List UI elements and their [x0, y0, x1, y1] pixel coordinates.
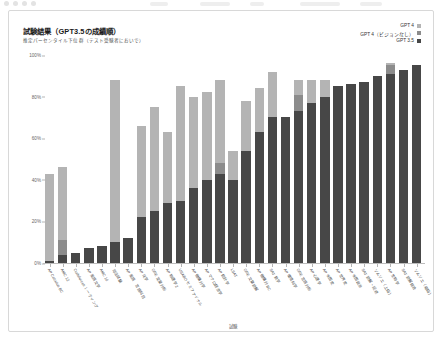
bar-segment-gpt35 [189, 188, 198, 263]
bar-slot[interactable] [161, 55, 174, 263]
bar-segment-gpt35 [373, 76, 382, 263]
bar-stack[interactable] [84, 248, 93, 263]
bar-stack[interactable] [176, 86, 185, 263]
bar-stack[interactable] [189, 97, 198, 263]
y-axis-tick-0: 0% [9, 261, 41, 266]
bar-slot[interactable] [292, 55, 305, 263]
bar-slot[interactable] [187, 55, 200, 263]
bar-stack[interactable] [71, 253, 80, 263]
bar-stack[interactable] [255, 88, 264, 263]
bar-stack[interactable] [97, 246, 106, 263]
bar-stack[interactable] [215, 80, 224, 263]
bar-slot[interactable] [279, 55, 292, 263]
bar-stack[interactable] [163, 132, 172, 263]
x-axis-label-slot: Codeforces レーティング [69, 268, 82, 330]
bar-slot[interactable] [358, 55, 371, 263]
bar-slot[interactable] [318, 55, 331, 263]
bar-slot[interactable] [95, 55, 108, 263]
bar-segment-gpt4 [307, 80, 316, 103]
legend-swatch-icon [417, 24, 421, 28]
bar-stack[interactable] [123, 238, 132, 263]
bar-stack[interactable] [45, 174, 54, 263]
x-axis-label-slot: AP 米国史 [318, 268, 331, 330]
bar-slot[interactable] [69, 55, 82, 263]
bar-segment-gpt35 [84, 248, 93, 263]
bar-stack[interactable] [373, 76, 382, 263]
bar-slot[interactable] [305, 55, 318, 263]
bar-stack[interactable] [333, 86, 342, 263]
legend-label: GPT 4（ビジョンなし） [360, 30, 414, 37]
x-axis-label-slot: AP 英語 言語科目 [122, 268, 135, 330]
bar-slot[interactable] [397, 55, 410, 263]
bar-stack[interactable] [202, 92, 211, 263]
x-axis-tick [410, 264, 423, 267]
bar-stack[interactable] [294, 80, 303, 263]
bar-segment-gpt35 [150, 211, 159, 263]
bar-segment-gpt35 [333, 86, 342, 263]
bar-slot[interactable] [227, 55, 240, 263]
bar-stack[interactable] [412, 65, 421, 263]
bar-slot[interactable] [174, 55, 187, 263]
bar-segment-gpt4 [294, 80, 303, 95]
bar-stack[interactable] [281, 117, 290, 263]
bar-slot[interactable] [148, 55, 161, 263]
bar-slot[interactable] [331, 55, 344, 263]
bar-segment-gpt35 [215, 174, 224, 263]
bar-slot[interactable] [213, 55, 226, 263]
browser-chrome-strip [0, 0, 442, 9]
bar-segment-gpt35 [110, 242, 119, 263]
bar-slot[interactable] [122, 55, 135, 263]
bar-slot[interactable] [240, 55, 253, 263]
window-dot-close-icon [4, 1, 9, 6]
x-axis-label-slot: GRE 定量分析 [148, 268, 161, 330]
bar-stack[interactable] [137, 126, 146, 263]
chrome-placeholder-d [300, 2, 340, 6]
bar-stack[interactable] [386, 63, 395, 263]
bar-slot[interactable] [384, 55, 397, 263]
bar-slot[interactable] [135, 55, 148, 263]
bar-segment-gpt35 [307, 103, 316, 263]
bar-slot[interactable] [43, 55, 56, 263]
bar-group [43, 55, 423, 263]
bar-stack[interactable] [268, 72, 277, 263]
bar-slot[interactable] [200, 55, 213, 263]
x-axis-label-slot: AP 化学 [135, 268, 148, 330]
bar-stack[interactable] [228, 151, 237, 263]
bar-segment-gpt4 [176, 86, 185, 200]
bar-slot[interactable] [371, 55, 384, 263]
x-axis-label-slot: AP 心理学 [305, 268, 318, 330]
bar-slot[interactable] [266, 55, 279, 263]
bar-segment-gpt4 [110, 80, 119, 242]
bar-segment-gpt4-novision [386, 65, 395, 73]
bar-stack[interactable] [110, 80, 119, 263]
bar-segment-gpt4 [268, 72, 277, 118]
x-axis-label-slot: ソムリエ（初級） [410, 268, 423, 330]
bar-stack[interactable] [399, 70, 408, 263]
bar-stack[interactable] [58, 167, 67, 263]
bar-slot[interactable] [345, 55, 358, 263]
x-axis-label-slot: AP 世界史 [331, 268, 344, 330]
bar-segment-gpt4 [45, 174, 54, 261]
y-axis-tick-20: 20% [9, 219, 41, 224]
chrome-placeholder-e [360, 2, 382, 6]
bar-segment-gpt4 [202, 92, 211, 179]
bar-stack[interactable] [150, 107, 159, 263]
x-axis-label: AP 化学 [138, 268, 148, 282]
bar-slot[interactable] [82, 55, 95, 263]
bar-stack[interactable] [346, 84, 355, 263]
bar-segment-gpt35 [163, 203, 172, 263]
bar-stack[interactable] [359, 82, 368, 263]
bar-slot[interactable] [410, 55, 423, 263]
bar-segment-gpt35 [255, 132, 264, 263]
bar-stack[interactable] [320, 80, 329, 263]
bar-segment-gpt35 [58, 255, 67, 263]
bar-slot[interactable] [56, 55, 69, 263]
legend-swatch-icon [417, 39, 421, 43]
bar-slot[interactable] [253, 55, 266, 263]
bar-stack[interactable] [241, 101, 250, 263]
x-axis-label-slot: USABO セミファイナル [174, 268, 187, 330]
x-axis-label-slot: AP 英語文学 [82, 268, 95, 330]
chart-legend: GPT 4GPT 4（ビジョンなし）GPT 3.5 [360, 23, 421, 43]
bar-stack[interactable] [307, 80, 316, 263]
bar-slot[interactable] [109, 55, 122, 263]
